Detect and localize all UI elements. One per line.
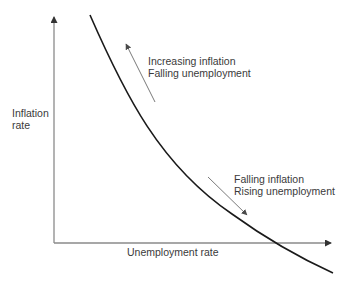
y-axis-label: Inflation rate bbox=[12, 108, 49, 131]
annotation-lower-line1: Falling inflation bbox=[234, 174, 335, 186]
phillips-curve-diagram bbox=[0, 0, 342, 282]
y-axis-label-line2: rate bbox=[12, 120, 49, 132]
annotation-lower-line2: Rising unemployment bbox=[234, 186, 335, 198]
annotation-upper: Increasing inflation Falling unemploymen… bbox=[148, 56, 251, 79]
x-axis-label: Unemployment rate bbox=[127, 247, 219, 259]
y-axis-label-line1: Inflation bbox=[12, 108, 49, 120]
annotation-lower: Falling inflation Rising unemployment bbox=[234, 174, 335, 197]
phillips-curve bbox=[90, 15, 333, 273]
annotation-upper-line1: Increasing inflation bbox=[148, 56, 251, 68]
annotation-upper-line2: Falling unemployment bbox=[148, 68, 251, 80]
